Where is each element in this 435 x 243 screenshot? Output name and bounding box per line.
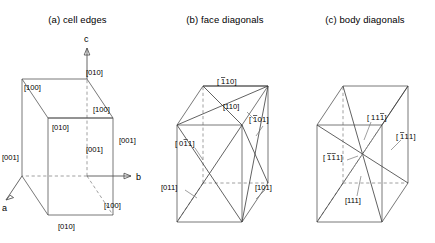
panel-c-drawing: [ 1 1 1 ] [ 1 1 1 ] [ 1 1 1 ] (295, 0, 435, 243)
label-top-lower: [110] (223, 102, 239, 111)
label-left-upper: [ 0 1 1 ] (175, 139, 195, 148)
svg-text:[: [ (323, 153, 326, 162)
panel-body-diagonals: (c) body diagonals (295, 0, 435, 243)
svg-text:[: [ (367, 113, 370, 122)
label-top-upper: [ 1 1 0 ] (217, 77, 237, 86)
svg-text:[: [ (396, 132, 399, 141)
svg-text:[: [ (217, 77, 220, 86)
label-upper-right-diagonal: [ 1 1 1 ] (396, 132, 416, 141)
panel-a-drawing: c b a [010] [100] [100] [010] [001] [001… (0, 0, 155, 243)
svg-text:]: ] (235, 77, 237, 86)
svg-text:]: ] (341, 153, 343, 162)
label-right-upper: [ 1 0 1 ] (249, 115, 269, 124)
svg-text:]: ] (267, 115, 269, 124)
label-edge-top-back-right: [010] (86, 68, 103, 77)
svg-text:[: [ (175, 139, 178, 148)
label-edge-bottom-front: [010] (58, 222, 75, 231)
label-edge-bottom-right: [100] (104, 201, 121, 210)
label-edge-top-front-left: [010] (52, 123, 69, 132)
label-edge-left-vertical: [001] (2, 153, 19, 162)
label-edge-top-front-right: [100] (93, 105, 110, 114)
b-axis-label: b (136, 172, 141, 182)
label-bottom-diagonal: [111] (345, 196, 361, 205)
label-left-mid-diagonal: [ 1 1 1 ] (323, 153, 343, 162)
panel-cell-edges: (a) cell edges (0, 0, 155, 243)
svg-text:[110]: [110] (223, 102, 239, 111)
svg-text:[111]: [111] (345, 196, 361, 205)
label-edge-top-back-left: [100] (24, 83, 41, 92)
svg-text:]: ] (385, 113, 387, 122)
c-axis-label: c (84, 34, 89, 44)
svg-text:]: ] (414, 132, 416, 141)
svg-text:]: ] (193, 139, 195, 148)
panel-face-diagonals: (b) face diagonals (155, 0, 295, 243)
a-axis-label: a (2, 203, 7, 213)
svg-text:[011]: [011] (161, 183, 177, 192)
panel-b-drawing: [ 1 1 0 ] [110] [ 1 0 1 ] [ 0 1 (155, 0, 295, 243)
svg-text:[101]: [101] (255, 183, 272, 192)
label-right-lower: [101] (255, 183, 272, 192)
label-edge-right-vertical: [001] (119, 136, 136, 145)
label-edge-middle-vertical: [001] (86, 145, 103, 154)
label-leaders (347, 122, 401, 196)
label-upper-left-diagonal: [ 1 1 1 ] (367, 113, 387, 122)
label-left-lower: [011] (161, 183, 177, 192)
figure-crystal-directions: (a) cell edges (0, 0, 435, 243)
